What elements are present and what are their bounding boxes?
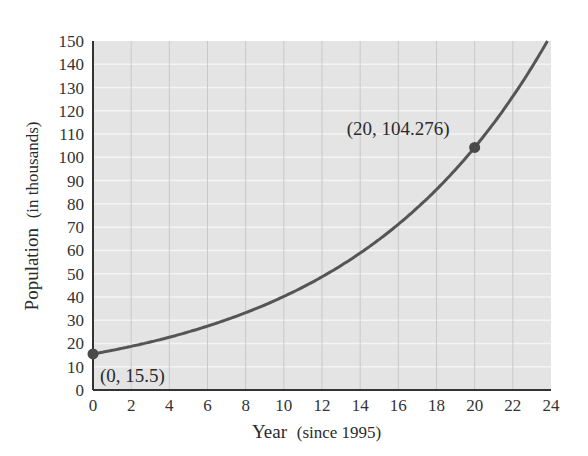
y-tick-label: 120 xyxy=(59,102,85,121)
data-point-label: (0, 15.5) xyxy=(100,365,165,387)
y-tick-label: 40 xyxy=(67,288,84,307)
x-tick-label: 2 xyxy=(127,396,136,415)
y-tick-label: 110 xyxy=(59,125,84,144)
y-tick-label: 30 xyxy=(67,311,84,330)
y-tick-label: 140 xyxy=(59,55,85,74)
y-tick-label: 20 xyxy=(67,334,84,353)
data-point-marker xyxy=(469,142,480,153)
y-tick-label: 70 xyxy=(67,218,84,237)
x-tick-label: 14 xyxy=(352,396,370,415)
x-axis-title: Year (since 1995) xyxy=(252,421,381,442)
x-tick-label: 6 xyxy=(203,396,212,415)
x-tick-label: 4 xyxy=(165,396,174,415)
y-tick-label: 130 xyxy=(59,79,85,98)
y-tick-label: 50 xyxy=(67,265,84,284)
x-tick-label: 18 xyxy=(428,396,445,415)
y-tick-label: 90 xyxy=(67,172,84,191)
x-tick-label: 24 xyxy=(543,396,561,415)
x-tick-label: 0 xyxy=(89,396,98,415)
x-tick-label: 16 xyxy=(390,396,407,415)
x-tick-label: 20 xyxy=(466,396,483,415)
y-axis-title-note: (in thousands) xyxy=(23,122,42,219)
x-tick-label: 22 xyxy=(504,396,521,415)
data-point-label: (20, 104.276) xyxy=(347,118,450,140)
y-axis-title-main: Population xyxy=(21,228,42,311)
x-axis-ticks: 024681012141618202224 xyxy=(89,396,560,415)
x-axis-title-note: (since 1995) xyxy=(297,423,382,442)
y-tick-label: 150 xyxy=(59,32,85,51)
y-axis-title: Population (in thousands) xyxy=(21,122,42,311)
y-tick-label: 80 xyxy=(67,195,84,214)
y-tick-label: 100 xyxy=(59,148,85,167)
y-tick-label: 60 xyxy=(67,241,84,260)
x-tick-label: 12 xyxy=(314,396,331,415)
y-tick-label: 10 xyxy=(67,358,84,377)
y-axis-ticks: 0102030405060708090100110120130140150 xyxy=(59,32,85,400)
population-chart: 0102030405060708090100110120130140150 02… xyxy=(0,0,588,456)
data-point-marker xyxy=(88,348,99,359)
x-tick-label: 8 xyxy=(241,396,250,415)
y-tick-label: 0 xyxy=(76,381,85,400)
x-axis-title-main: Year xyxy=(252,421,288,442)
x-tick-label: 10 xyxy=(275,396,292,415)
